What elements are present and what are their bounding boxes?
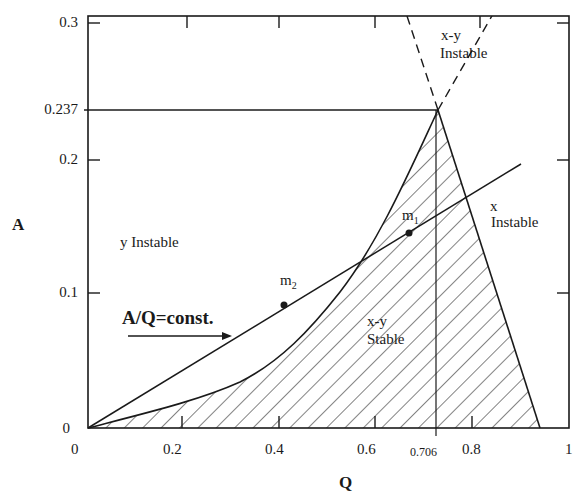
y-axis-ticks [88,23,569,293]
x-tick-0-8: 0.8 [462,442,481,457]
arrow-head-icon [222,332,232,340]
label-xy-stable-1: x-y [367,313,387,330]
label-m2-sub: 2 [292,280,297,291]
label-aq-const: A/Q=const. [122,308,214,327]
point-m1 [406,230,413,237]
chart-canvas [0,0,587,498]
label-m1: m1 [402,207,419,227]
stable-region [88,110,540,428]
x-tick-0-706: 0.706 [410,446,437,458]
label-x: x [490,198,498,215]
xy-instable-dashed-left [407,16,438,110]
label-xy-stable-2: Stable [367,331,405,348]
x-tick-1: 1 [565,442,573,457]
label-y-instable: y Instable [120,234,179,251]
y-tick-0-1: 0.1 [18,285,78,300]
x-tick-0-2: 0.2 [163,442,182,457]
y-tick-0-3: 0.3 [18,15,78,30]
label-x-instable: Instable [491,214,538,231]
y-tick-0-2: 0.2 [18,152,78,167]
y-tick-0-237: 0.237 [18,102,78,117]
x-tick-0: 0 [71,442,79,457]
label-m2: m2 [280,272,297,292]
x-tick-0-4: 0.4 [265,442,284,457]
y-tick-0: 0 [10,421,70,436]
y-axis-title: A [12,216,24,233]
label-xy-top-2: Instable [440,45,487,62]
point-m2 [281,302,288,309]
x-axis-title: Q [339,474,352,491]
label-m1-text: m [402,207,414,223]
x-tick-0-6: 0.6 [357,442,376,457]
label-m2-text: m [280,272,292,288]
label-m1-sub: 1 [414,215,419,226]
label-xy-top-1: x-y [441,27,461,44]
